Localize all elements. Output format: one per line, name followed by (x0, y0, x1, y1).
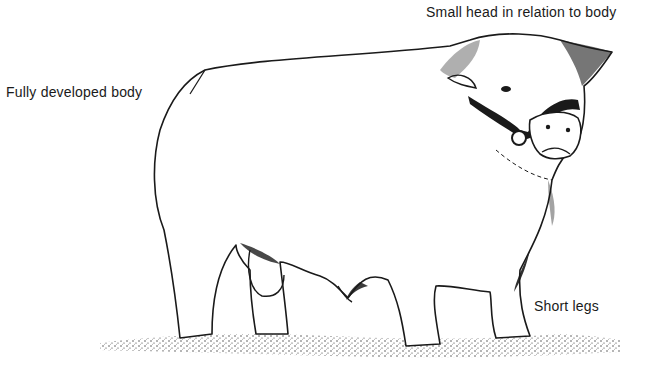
label-short-legs: Short legs (534, 298, 599, 314)
eye-icon (501, 86, 511, 92)
pig-illustration (0, 0, 664, 371)
halter-ring-icon (512, 131, 526, 145)
ground-stipple (100, 334, 620, 357)
label-small-head: Small head in relation to body (426, 4, 616, 20)
label-fully-developed-body: Fully developed body (6, 84, 142, 100)
